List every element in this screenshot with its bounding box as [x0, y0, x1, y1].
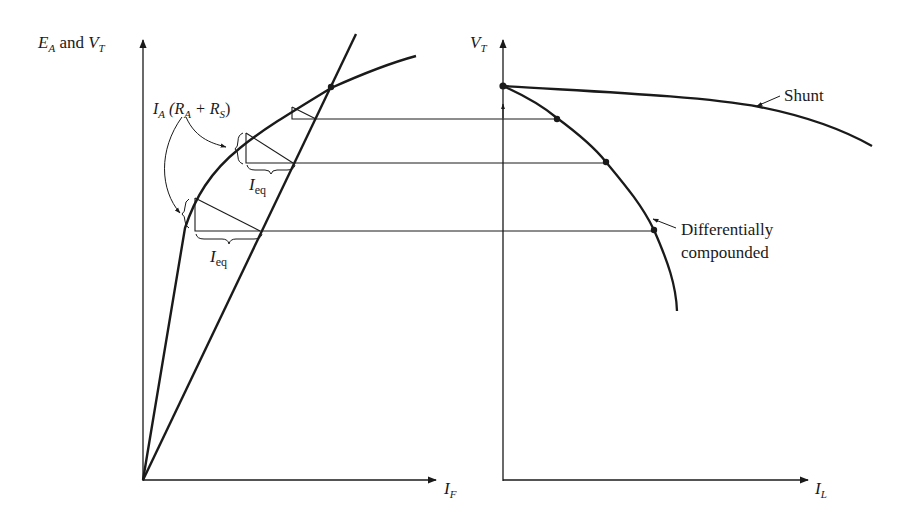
triangle-1 — [292, 107, 316, 119]
drop-annotation-label: IA (RA + RS) — [152, 100, 230, 120]
brace-horizontal-3 — [196, 234, 262, 244]
left-x-axis-label: IF — [443, 479, 457, 500]
shunt-label: Shunt — [784, 86, 824, 105]
diff-point-1 — [554, 116, 560, 122]
right-y-axis-label: VT — [470, 33, 487, 54]
left-y-axis-label: EA and VT — [37, 33, 106, 54]
annotation-arrow-upper — [186, 117, 226, 147]
triangle-2 — [246, 133, 293, 163]
ieq-label-2: Ieq — [209, 247, 227, 269]
differential-label-line1: Differentially — [681, 220, 774, 239]
projection-lines — [260, 119, 654, 231]
differential-label-line2: compounded — [681, 243, 769, 262]
ieq-label-1: Ieq — [248, 175, 266, 197]
annotation-arrow-lower — [165, 117, 183, 213]
differential-leader — [653, 219, 676, 228]
brace-vertical-3 — [182, 199, 189, 228]
no-load-point — [499, 82, 506, 89]
diff-point-2 — [603, 159, 609, 165]
left-plot: EA and VT IA (RA + RS) Ieq Ieq IF — [37, 33, 457, 500]
shunt-leader — [757, 96, 780, 106]
operating-point-dot — [328, 84, 334, 90]
brace-horizontal-2 — [247, 165, 295, 174]
diff-point-3 — [651, 227, 657, 233]
right-x-axis-label: IL — [814, 479, 827, 500]
triangle-3 — [195, 198, 260, 231]
generator-characteristic-diagram: EA and VT IA (RA + RS) Ieq Ieq IF — [0, 0, 910, 512]
right-plot: VT Shunt Differentially compounded IL — [470, 33, 872, 500]
differential-curve — [503, 86, 677, 311]
